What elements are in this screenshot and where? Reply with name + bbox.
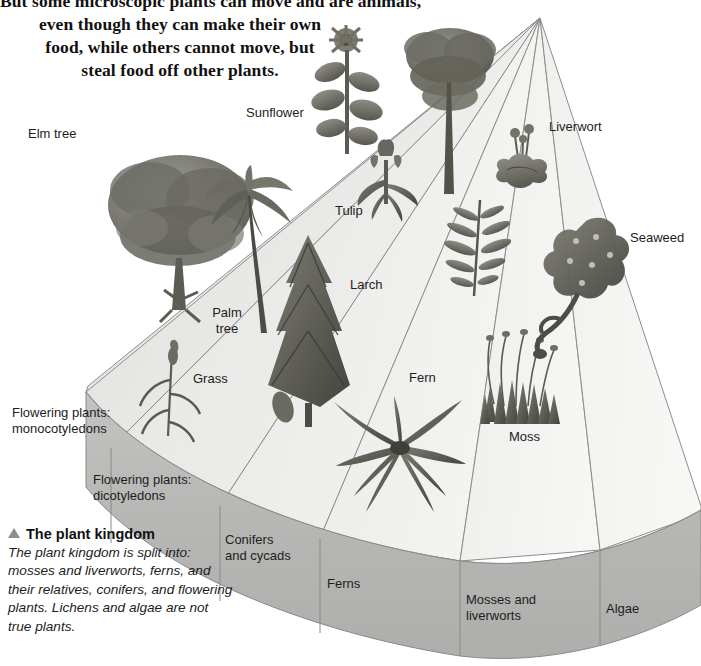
triangle-up-icon bbox=[8, 528, 20, 538]
intro-line-4: steal food off other plants. bbox=[0, 59, 360, 82]
label-tulip: Tulip bbox=[335, 203, 363, 219]
intro-paragraph: But some microscopic plants can move and… bbox=[0, 0, 360, 82]
label-liverwort: Liverwort bbox=[549, 119, 602, 135]
intro-line-1: But some microscopic plants can move and… bbox=[0, 0, 360, 13]
label-sunflower: Sunflower bbox=[246, 105, 304, 121]
segment-label-algae[interactable]: Algae bbox=[606, 601, 639, 617]
label-elm-tree: Elm tree bbox=[28, 126, 76, 142]
label-moss: Moss bbox=[509, 429, 540, 445]
figure-caption: The plant kingdom The plant kingdom is s… bbox=[8, 526, 233, 636]
segment-label-flowering-monocotyledons[interactable]: Flowering plants: monocotyledons bbox=[12, 405, 110, 436]
segment-label-flowering-dicotyledons[interactable]: Flowering plants: dicotyledons bbox=[93, 472, 191, 503]
label-fern: Fern bbox=[409, 370, 436, 386]
label-palm-tree: Palm tree bbox=[204, 305, 250, 336]
segment-label-conifers-cycads[interactable]: Conifers and cycads bbox=[225, 532, 291, 563]
caption-heading: The plant kingdom bbox=[26, 526, 155, 542]
label-larch: Larch bbox=[350, 277, 383, 293]
label-grass: Grass bbox=[193, 371, 228, 387]
label-seaweed: Seaweed bbox=[630, 230, 684, 246]
caption-body: The plant kingdom is split into: mosses … bbox=[8, 544, 233, 636]
caption-heading-row: The plant kingdom bbox=[8, 526, 233, 542]
intro-line-3: food, while others cannot move, but bbox=[0, 36, 360, 59]
intro-line-2: even though they can make their own bbox=[0, 13, 360, 36]
segment-label-ferns[interactable]: Ferns bbox=[327, 576, 360, 592]
segment-label-mosses-liverworts[interactable]: Mosses and liverworts bbox=[466, 592, 536, 623]
